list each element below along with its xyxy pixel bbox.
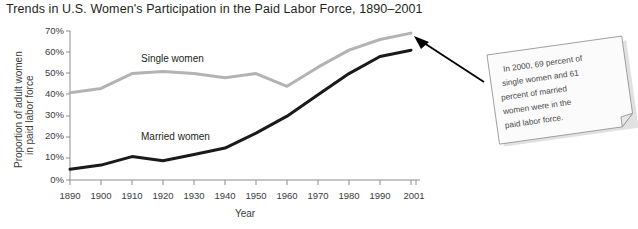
x-tick-label: 1910 [121,190,142,201]
series-label-single-women: Single women [141,53,204,64]
callout-arrow [414,36,484,82]
y-axis-title-line2: in paid labor force [24,75,35,155]
x-tick-label: 1920 [152,190,173,201]
x-tick-label: 1930 [183,190,204,201]
y-tick-label: 20% [45,130,65,141]
y-tick-label: 0% [50,174,64,185]
x-axis-tick-labels: 1890 1900 1910 1920 1930 1940 1950 1960 … [59,190,424,201]
y-axis-ticks [66,31,70,180]
y-axis-title-line1: Proportion of adult women [13,51,24,168]
x-axis-title: Year [235,208,256,219]
x-tick-label: 1960 [276,190,297,201]
x-tick-label: 1980 [338,190,359,201]
x-tick-label: 1970 [307,190,328,201]
x-tick-label: 1950 [245,190,266,201]
y-tick-label: 50% [45,67,65,78]
y-tick-label: 30% [45,109,65,120]
series-label-married-women: Married women [141,131,210,142]
y-axis-tick-labels: 70% 60% 50% 40% 30% 20% 10% 0% [45,25,65,185]
x-tick-label: 1890 [59,190,80,201]
x-tick-label: 1990 [369,190,390,201]
x-axis-ticks [70,180,416,185]
callout-note: In 2000, 69 percent of single women and … [487,36,638,148]
series-line-married-women [70,50,411,169]
y-tick-label: 10% [45,151,65,162]
chart-plot-area: Proportion of adult women in paid labor … [0,0,638,229]
y-axis-title: Proportion of adult women in paid labor … [13,51,35,168]
chart-figure: Trends in U.S. Women's Participation in … [0,0,638,229]
y-tick-label: 70% [45,25,65,36]
x-tick-label: 1900 [90,190,111,201]
y-tick-label: 40% [45,88,65,99]
x-tick-label: 1940 [214,190,235,201]
x-tick-label: 2001 [403,190,424,201]
y-tick-label: 60% [45,46,65,57]
series-line-single-women [70,33,411,93]
